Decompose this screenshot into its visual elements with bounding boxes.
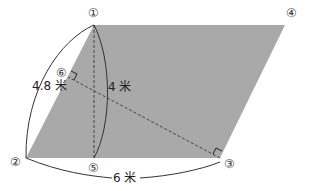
- arc-base-right: [140, 162, 220, 178]
- arc-base-left: [26, 158, 112, 178]
- point-label-2: ②: [10, 155, 21, 169]
- point-label-1: ①: [88, 6, 99, 20]
- dimension-base: 6 米: [113, 171, 136, 185]
- dimension-height: 4 米: [108, 80, 131, 94]
- dimension-slant-side: 4.8 米: [32, 79, 67, 93]
- point-label-6: ⑥: [56, 66, 67, 80]
- point-label-3: ③: [224, 157, 235, 171]
- parallelogram-diagram: ① ④ ② ③ ⑤ ⑥ 4.8 米 4 米 6 米: [0, 0, 309, 191]
- point-label-4: ④: [286, 6, 297, 20]
- point-label-5: ⑤: [88, 161, 99, 175]
